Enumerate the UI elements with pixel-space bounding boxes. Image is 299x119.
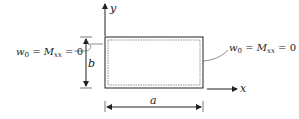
right-boundary-condition: w0 = Mxx = 0 bbox=[229, 42, 296, 55]
plate-inner-dashed bbox=[108, 40, 200, 85]
plate-outer bbox=[105, 37, 203, 88]
height-label: b bbox=[88, 57, 95, 70]
y-axis-label: y bbox=[109, 2, 117, 15]
width-label: a bbox=[150, 94, 157, 107]
plate-diagram: y x b a w0 = Mxx = 0 w0 = Mxx = 0 bbox=[0, 0, 299, 119]
left-boundary-condition: w0 = Mxx = 0 bbox=[16, 46, 83, 59]
x-axis-label: x bbox=[240, 82, 247, 95]
